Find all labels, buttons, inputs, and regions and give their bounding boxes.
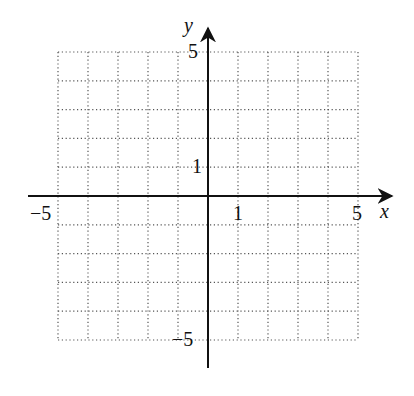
x-axis-label: x bbox=[379, 200, 389, 222]
y-tick-1: 1 bbox=[192, 155, 202, 177]
y-axis-label: y bbox=[182, 14, 193, 37]
y-tick-5: 5 bbox=[188, 40, 198, 62]
coordinate-plane: x y −5 1 5 5 1 −5 bbox=[0, 0, 414, 396]
x-tick-5: 5 bbox=[352, 202, 362, 224]
y-tick-neg5: −5 bbox=[172, 328, 193, 350]
x-tick-1: 1 bbox=[233, 202, 243, 224]
x-tick-neg5: −5 bbox=[30, 202, 51, 224]
